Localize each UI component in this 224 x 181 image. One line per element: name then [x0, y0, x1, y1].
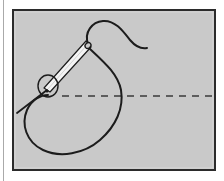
needle-entry-dot: [45, 89, 48, 92]
illustration-frame: [13, 10, 215, 170]
needle-thread-illustration: [0, 0, 224, 181]
figure-root: Sewing needle drawing thread through fab…: [0, 0, 224, 181]
